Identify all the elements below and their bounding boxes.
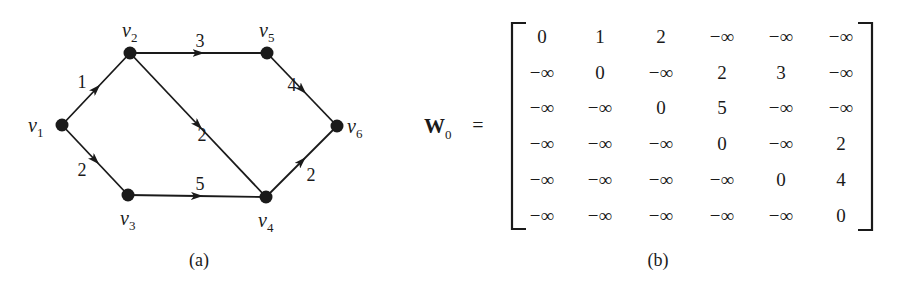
equals-sign: = [472,114,483,136]
node-label: v3 [120,207,135,233]
weight-matrix: W0 = 012−∞−∞−∞−∞0−∞23−∞−∞−∞05−∞−∞−∞−∞−∞0… [424,23,872,230]
edge-weight: 2 [78,160,87,180]
matrix-cell-2-3: −∞ [649,62,673,83]
matrix-cell-2-5: 3 [776,62,786,83]
matrix-cell-6-3: −∞ [649,205,673,226]
matrix-cell-1-2: 1 [595,26,605,47]
edge-weight: 1 [78,72,87,92]
edge-weight: 2 [198,125,207,145]
matrix-cell-1-3: 2 [656,26,666,47]
matrix-cell-3-4: 5 [717,97,727,118]
edge-v2-v5: 3 [130,31,267,53]
matrix-cell-1-5: −∞ [769,26,793,47]
node-v6: v6 [331,115,363,141]
graph-edges: 1232542 [62,31,337,197]
matrix-cell-3-2: −∞ [588,97,612,118]
matrix-cell-2-1: −∞ [530,62,554,83]
matrix-cell-6-1: −∞ [530,205,554,226]
edge-weight: 3 [196,31,205,51]
node-v4: v4 [258,191,274,236]
matrix-cell-5-6: 4 [836,169,846,190]
node-dot [124,47,137,60]
matrix-cell-5-4: −∞ [710,169,734,190]
matrix-cell-5-3: −∞ [649,169,673,190]
edge-weight: 4 [288,75,297,95]
matrix-cell-5-5: 0 [776,169,786,190]
matrix-cell-6-5: −∞ [769,205,793,226]
matrix-cell-3-1: −∞ [530,97,554,118]
node-label: v4 [258,209,274,235]
edge-weight: 5 [196,174,205,194]
node-dot [261,47,274,60]
matrix-cell-4-3: −∞ [649,133,673,154]
matrix-cell-5-2: −∞ [588,169,612,190]
matrix-cell-3-5: −∞ [769,97,793,118]
node-label: v2 [122,19,137,45]
matrix-cell-2-6: −∞ [829,62,853,83]
node-dot [260,191,273,204]
node-label: v6 [347,115,363,141]
matrix-cell-3-3: 0 [656,97,666,118]
matrix-cell-4-4: 0 [717,133,727,154]
edge-weight: 2 [307,165,316,185]
matrix-cell-4-5: −∞ [769,133,793,154]
graph-nodes: v1v2v3v4v5v6 [28,19,363,235]
edge-v1-v2: 1 [62,53,130,125]
caption-b: (b) [648,250,669,271]
matrix-cell-2-4: 2 [717,62,727,83]
matrix-cell-6-4: −∞ [710,205,734,226]
matrix-cells: 012−∞−∞−∞−∞0−∞23−∞−∞−∞05−∞−∞−∞−∞−∞0−∞2−∞… [530,26,853,226]
edge-line [128,195,266,197]
matrix-cell-1-4: −∞ [710,26,734,47]
node-dot [56,119,69,132]
matrix-cell-4-1: −∞ [530,133,554,154]
matrix-cell-5-1: −∞ [530,169,554,190]
node-dot [122,189,135,202]
matrix-name: W0 [424,114,452,142]
matrix-cell-1-1: 0 [537,26,547,47]
node-v3: v3 [120,189,135,234]
edge-line [62,53,130,125]
matrix-name-letter: W [424,114,445,138]
node-v1: v1 [28,114,69,140]
edge-line [62,125,128,195]
caption-a: (a) [189,250,209,271]
matrix-cell-6-6: 0 [836,205,846,226]
edge-line [266,126,337,197]
node-dot [331,120,344,133]
directed-graph: 1232542 v1v2v3v4v5v6 [28,19,363,235]
figure-canvas: 1232542 v1v2v3v4v5v6 (a) W0 = 012−∞−∞−∞−… [0,0,898,293]
matrix-cell-1-6: −∞ [829,26,853,47]
edge-v1-v3: 2 [62,125,128,195]
left-bracket [512,23,526,229]
matrix-name-subscript: 0 [445,127,452,142]
matrix-cell-2-2: 0 [595,62,605,83]
node-v2: v2 [122,19,137,60]
matrix-cell-4-6: 2 [836,133,846,154]
matrix-cell-3-6: −∞ [829,97,853,118]
matrix-cell-4-2: −∞ [588,133,612,154]
edge-v5-v6: 4 [267,53,337,126]
node-label: v5 [259,19,274,45]
node-v5: v5 [259,19,274,60]
edge-v3-v4: 5 [128,174,266,197]
edge-v4-v6: 2 [266,126,337,197]
matrix-cell-6-2: −∞ [588,205,612,226]
right-bracket [858,23,872,230]
edge-line [267,53,337,126]
node-label: v1 [28,114,43,140]
